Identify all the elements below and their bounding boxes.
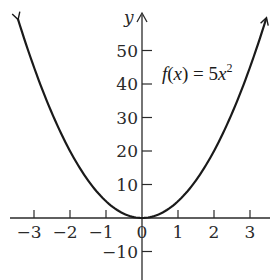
y-tick-label: 50	[116, 41, 138, 61]
function-label: f(x) = 5x2	[162, 61, 233, 85]
x-tick-label: 2	[209, 222, 220, 242]
x-tick-label: −3	[16, 222, 41, 242]
y-tick-label: 10	[116, 175, 138, 195]
x-tick-label: 1	[173, 222, 184, 242]
x-tick-label: 3	[245, 222, 256, 242]
x-tick-label: 0	[137, 222, 148, 242]
parabola-chart: −3−2−10123−101020304050 y f(x) = 5x2	[0, 0, 270, 280]
x-tick-label: −1	[88, 222, 113, 242]
x-tick-label: −2	[52, 222, 77, 242]
y-tick-label: −10	[102, 242, 138, 262]
y-axis-label: y	[123, 7, 134, 27]
y-tick-label: 30	[116, 108, 138, 128]
y-tick-label: 20	[116, 141, 138, 161]
y-tick-label: 40	[116, 74, 138, 94]
